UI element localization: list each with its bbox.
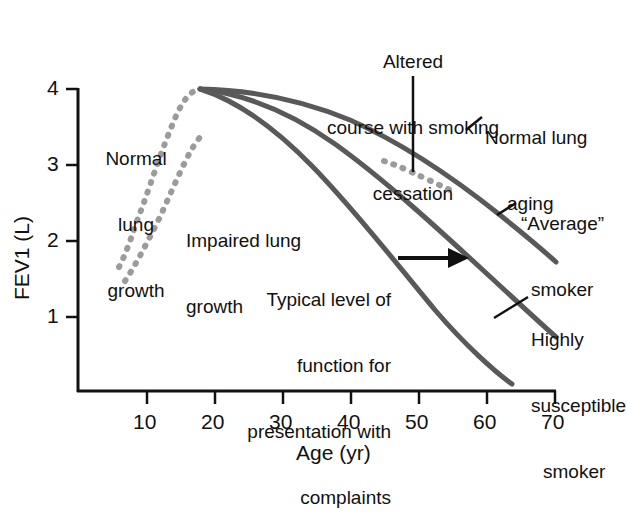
y-tick-label-2: 2 — [47, 228, 59, 252]
y-tick-label-4: 4 — [47, 76, 59, 100]
annotation-typical-level: Typical level of function for presentati… — [206, 245, 391, 512]
x-tick-label-60: 60 — [473, 410, 496, 434]
annotation-altered-course-line1: Altered — [293, 51, 533, 73]
annotation-highly-susceptible-smoker-line1: Highly — [531, 329, 627, 351]
y-axis-ticks — [66, 89, 78, 317]
annotation-typical-level-line2: function for — [206, 355, 391, 377]
annotation-average-smoker-line1: “Average” — [521, 213, 627, 235]
annotation-normal-lung-growth-line1: Normal — [88, 148, 184, 170]
annotation-typical-level-line4: complaints — [206, 487, 391, 509]
arrow-typical-level — [398, 248, 469, 268]
annotation-normal-lung-growth: Normal lung growth — [88, 104, 184, 346]
y-axis-title: FEV1 (L) — [10, 216, 34, 300]
x-tick-label-50: 50 — [405, 410, 428, 434]
annotation-highly-susceptible-smoker-line2: susceptible — [531, 395, 627, 417]
annotation-normal-lung-growth-line2: lung — [88, 214, 184, 236]
y-tick-label-1: 1 — [47, 304, 59, 328]
x-tick-label-10: 10 — [133, 410, 156, 434]
annotation-typical-level-line1: Typical level of — [206, 289, 391, 311]
y-tick-label-3: 3 — [47, 152, 59, 176]
annotation-highly-susceptible-smoker-line3: smoker — [543, 461, 627, 483]
annotation-typical-level-line3: presentation with — [206, 421, 391, 443]
annotation-highly-susceptible-smoker: Highly susceptible smoker — [531, 285, 627, 512]
annotation-normal-lung-growth-line3: growth — [88, 280, 184, 302]
annotation-normal-lung-aging-line1: Normal lung — [485, 127, 625, 149]
